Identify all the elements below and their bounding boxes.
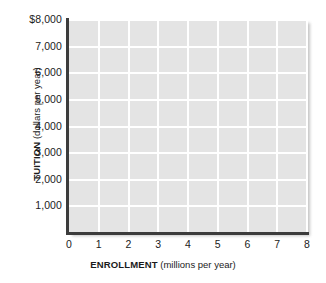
y-axis-line [66,18,69,235]
gridline-horizontal [69,19,307,21]
gridlines [69,20,307,233]
x-axis-title-bold: ENROLLMENT [90,259,157,270]
x-axis-title-unit: (millions per year) [160,259,236,270]
plot-background [69,20,307,233]
plot-area [69,20,307,233]
x-axis-tick-label: 1 [87,238,111,250]
gridline-horizontal [69,72,307,74]
x-axis-title: ENROLLMENT (millions per year) [0,259,326,271]
x-axis-tick-label: 7 [265,238,289,250]
gridline-horizontal [69,99,307,101]
x-axis-tick-label: 8 [295,238,319,250]
x-axis-tick-label: 2 [117,238,141,250]
gridline-horizontal [69,152,307,154]
x-axis-tick-label: 6 [236,238,260,250]
x-axis-tick-label: 5 [206,238,230,250]
x-axis-tick-label: 4 [176,238,200,250]
y-axis-title-unit: (dollars per year) [31,67,42,139]
x-axis-tick-labels: 012345678 [0,238,326,254]
x-axis-tick-label: 0 [57,238,81,250]
gridline-horizontal [69,126,307,128]
chart-figure: 1,0002,0003,0004,0005,0006,0007,000$8,00… [0,0,326,283]
y-axis-title-bold: TUITION [31,142,42,181]
x-axis-line [66,232,309,235]
gridline-horizontal [69,179,307,181]
x-axis-tick-label: 3 [146,238,170,250]
gridline-horizontal [69,46,307,48]
y-axis-title: TUITION (dollars per year) [31,24,43,224]
gridline-horizontal [69,205,307,207]
